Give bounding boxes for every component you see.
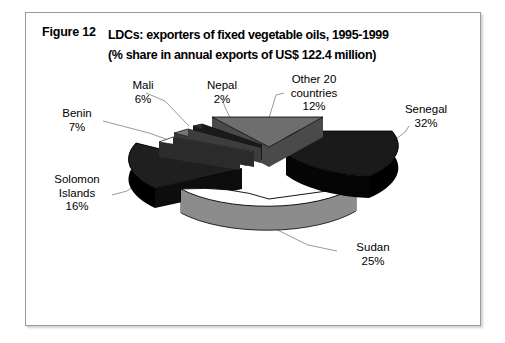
pie-label-benin-pct: 7% [42, 121, 112, 135]
pie-label-sudan-name: Sudan [338, 241, 408, 255]
pie-label-nepal-name: Nepal [191, 79, 253, 93]
pie-label-solomon-name-2: Islands [40, 187, 114, 201]
pie-label-benin: Benin 7% [42, 107, 112, 134]
pie-label-sudan-pct: 25% [338, 255, 408, 269]
pie-label-solomon-pct: 16% [40, 200, 114, 214]
figure-number-label: Figure 12 [42, 25, 96, 39]
pie-label-solomon-islands: Solomon Islands 16% [40, 173, 114, 214]
pie-label-nepal: Nepal 2% [191, 79, 253, 106]
pie-label-sudan: Sudan 25% [338, 241, 408, 268]
pie-label-benin-name: Benin [42, 107, 112, 121]
pie-label-mali-pct: 6% [112, 93, 174, 107]
pie-label-senegal-pct: 32% [388, 117, 464, 131]
figure-title-line-1: LDCs: exporters of fixed vegetable oils,… [108, 25, 468, 45]
figure-frame: Figure 12 LDCs: exporters of fixed veget… [25, 12, 481, 326]
pie-slice-sudan [181, 187, 356, 230]
pie-label-other-pct: 12% [271, 100, 357, 114]
pie-label-other-name-2: countries [271, 87, 357, 101]
pie-label-mali: Mali 6% [112, 79, 174, 106]
pie-label-other-name-1: Other 20 [271, 73, 357, 87]
pie-label-senegal-name: Senegal [388, 103, 464, 117]
pie-label-other-20-countries: Other 20 countries 12% [271, 73, 357, 114]
pie-label-solomon-name-1: Solomon [40, 173, 114, 187]
figure-title-line-2: (% share in annual exports of US$ 122.4 … [108, 45, 468, 65]
pie-label-nepal-pct: 2% [191, 93, 253, 107]
pie-chart: Benin 7% Mali 6% Nepal 2% Other 20 count… [26, 71, 480, 325]
figure-title: LDCs: exporters of fixed vegetable oils,… [108, 25, 468, 65]
pie-label-mali-name: Mali [112, 79, 174, 93]
pie-label-senegal: Senegal 32% [388, 103, 464, 130]
leader-line-benin [103, 121, 166, 139]
